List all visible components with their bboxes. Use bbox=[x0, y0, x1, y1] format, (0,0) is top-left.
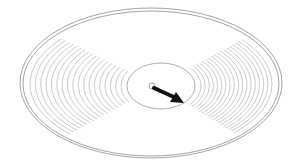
disc-diagram bbox=[0, 0, 302, 168]
inner-hub bbox=[127, 63, 195, 109]
